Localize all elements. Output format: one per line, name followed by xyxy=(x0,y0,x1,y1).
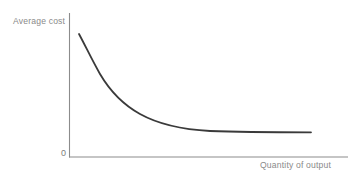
average-cost-figure: Average cost Quantity of output 0 xyxy=(0,0,354,177)
origin-label: 0 xyxy=(61,148,66,158)
y-axis-label: Average cost xyxy=(13,16,65,26)
x-axis-label: Quantity of output xyxy=(260,160,331,170)
plot-area xyxy=(0,0,354,177)
average-cost-curve xyxy=(79,34,311,132)
